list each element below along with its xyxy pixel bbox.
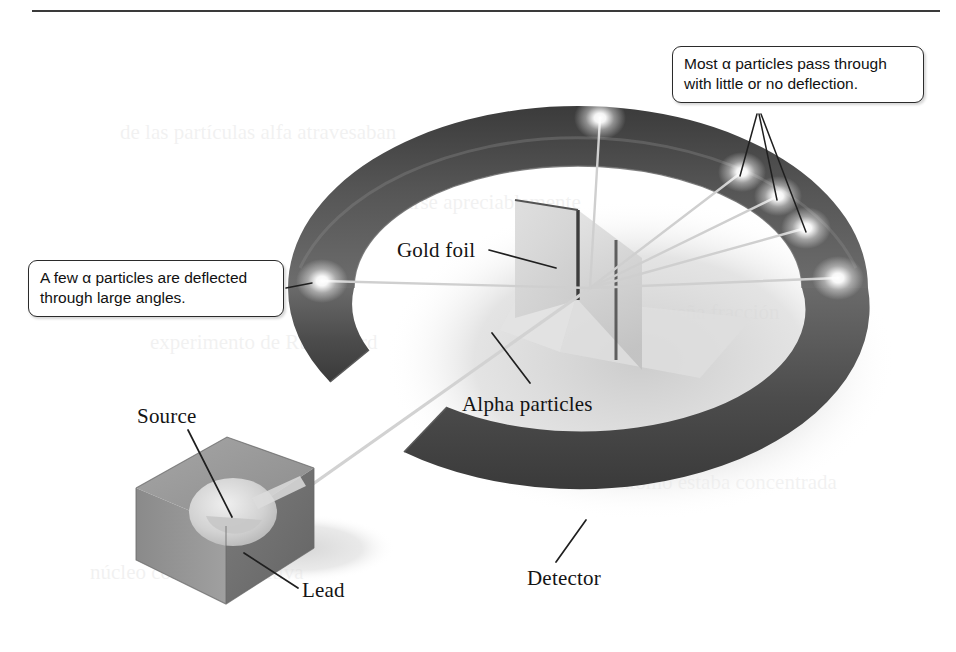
- label-lead: Lead: [302, 578, 345, 603]
- callout-most-particles-pass-through: Most α particles pass through with littl…: [672, 46, 924, 103]
- label-detector: Detector: [527, 566, 601, 591]
- flash-upper-right-3: [781, 207, 831, 249]
- label-alpha-particles: Alpha particles: [462, 392, 593, 417]
- flash-left: [296, 259, 348, 303]
- alpha-source-cavity: [189, 478, 277, 546]
- label-source: Source: [137, 404, 197, 429]
- leader-detector: [556, 520, 586, 562]
- figure-root: de las partículas alfa atravesaban sin d…: [0, 0, 956, 652]
- flash-top: [574, 96, 626, 140]
- flash-right: [812, 256, 864, 300]
- callout-few-particles-deflected: A few α particles are deflected through …: [28, 260, 284, 317]
- label-gold-foil: Gold foil: [397, 238, 475, 263]
